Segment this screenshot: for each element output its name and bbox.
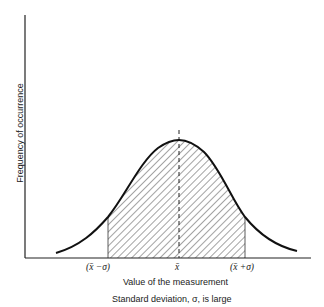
tick-minus-sigma: (x̄ −σ) <box>86 262 110 272</box>
x-axis-label: Value of the measurement <box>123 277 228 287</box>
normal-curve-plot <box>0 0 324 307</box>
caption: Standard deviation, σ, is large <box>112 294 232 304</box>
tick-plus-sigma: (x̄ +σ) <box>230 262 254 272</box>
tick-mean: x̄ <box>175 262 179 272</box>
y-axis-label: Frequency of occurrence <box>15 63 25 203</box>
shaded-area <box>56 140 297 258</box>
